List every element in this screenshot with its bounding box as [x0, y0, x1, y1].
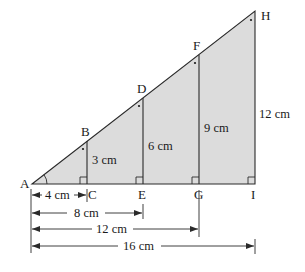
label-E: E	[138, 187, 146, 202]
triangle-diagram: A B C D E F G H I 3 cm 6 cm 9 cm 12 cm 4…	[0, 0, 305, 272]
label-F: F	[193, 38, 200, 53]
height-FG: 9 cm	[204, 121, 229, 135]
dim-AI: 16 cm	[123, 239, 154, 253]
label-B: B	[81, 124, 90, 139]
label-C: C	[88, 187, 97, 202]
height-HI: 12 cm	[259, 107, 290, 121]
dim-AE: 8 cm	[74, 206, 99, 220]
label-H: H	[261, 8, 270, 23]
dim-AG: 12 cm	[96, 222, 127, 236]
label-D: D	[137, 81, 146, 96]
height-DE: 6 cm	[148, 139, 173, 153]
height-BC: 3 cm	[92, 153, 117, 167]
label-I: I	[251, 187, 255, 202]
dim-AC: 4 cm	[45, 188, 70, 202]
label-A: A	[20, 176, 30, 191]
